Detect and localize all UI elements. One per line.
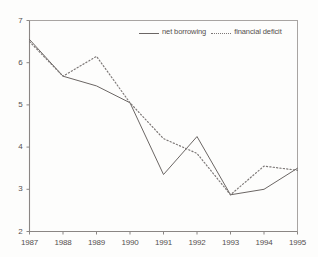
series-line-financial-deficit (30, 42, 298, 195)
series-layer (30, 39, 298, 194)
legend-swatch-solid-icon (139, 28, 159, 34)
legend-label-financial-deficit: financial deficit (234, 27, 282, 36)
x-tick-label: 1990 (115, 238, 145, 247)
legend-swatch-dotted-icon (211, 28, 231, 34)
legend-label-net-borrowing: net borrowing (162, 27, 206, 36)
x-tick-label: 1995 (283, 238, 313, 247)
axis-frame (29, 20, 298, 232)
y-tick-label: 4 (11, 142, 23, 151)
x-tick-label: 1991 (149, 238, 179, 247)
x-tick-label: 1994 (249, 238, 279, 247)
x-tick-label: 1989 (82, 238, 112, 247)
line-chart: 234567 198719881989199019911992199319941… (0, 0, 318, 257)
y-tick-label: 5 (11, 100, 23, 109)
y-tick-label: 2 (11, 227, 23, 236)
y-tick-label: 7 (11, 16, 23, 25)
x-tick-label: 1992 (182, 238, 212, 247)
chart-legend: net borrowing financial deficit (136, 24, 294, 39)
y-tick-label: 6 (11, 58, 23, 67)
y-tick-label: 3 (11, 184, 23, 193)
x-tick-label: 1987 (15, 238, 45, 247)
x-tick-label: 1993 (216, 238, 246, 247)
legend-entry-financial-deficit: financial deficit (211, 27, 282, 36)
series-line-net-borrowing (30, 39, 298, 194)
x-tick-label: 1988 (48, 238, 78, 247)
legend-entry-net-borrowing: net borrowing (139, 27, 206, 36)
